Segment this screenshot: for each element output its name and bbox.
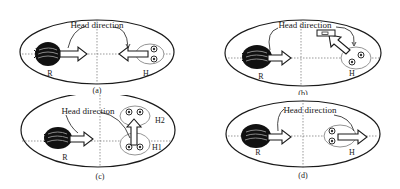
panel-caption: (d) — [298, 171, 308, 180]
robot-label: R — [255, 148, 261, 157]
panel-c: Head direction R H2 H1 (c) — [0, 95, 200, 189]
panel-d: Head direction R H (d) — [200, 95, 400, 189]
robot-direction-arrow-icon — [60, 47, 87, 61]
panel-caption: (c) — [96, 172, 105, 181]
human-label: H — [143, 69, 149, 78]
human-label-h2: H2 — [155, 116, 165, 125]
annotation-label: Head direction — [278, 20, 332, 30]
annotation-label: Head direction — [70, 20, 124, 30]
human-label: H — [349, 148, 355, 157]
annotation-label: Head direction — [61, 106, 115, 116]
annotation-pointer — [113, 27, 128, 47]
robot-direction-arrow-icon — [70, 132, 93, 146]
panel-caption: (a) — [93, 86, 102, 95]
annotation-pointer — [269, 28, 278, 50]
human-direction-arrow-icon — [329, 35, 350, 54]
camera-view-icon — [317, 30, 335, 36]
robot-icon — [241, 124, 271, 148]
robot-icon — [34, 42, 61, 66]
human-label-h1: H1 — [152, 143, 162, 152]
robot-direction-arrow-icon — [268, 51, 291, 65]
robot-label: R — [258, 72, 264, 81]
robot-icon — [44, 127, 72, 149]
human-label: H — [349, 69, 355, 78]
robot-label: R — [62, 153, 68, 162]
panel-b: Head direction R H (b) — [200, 0, 400, 95]
robot-label: R — [47, 69, 53, 78]
robot-direction-arrow-icon — [268, 130, 291, 144]
panel-a: Head direction R H (a) — [0, 0, 200, 95]
annotation-label: Head direction — [283, 105, 337, 115]
